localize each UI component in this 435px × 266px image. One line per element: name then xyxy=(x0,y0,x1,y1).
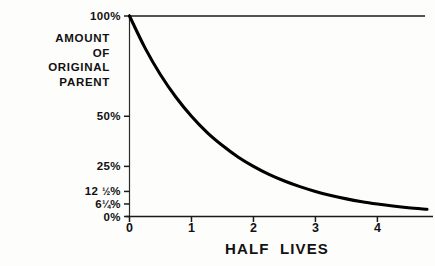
x-tick-label: 4 xyxy=(374,221,381,235)
y-tick-marks xyxy=(124,16,130,217)
x-tick-label: 0 xyxy=(126,221,133,235)
y-tick-label: 6¼% xyxy=(40,198,121,210)
y-axis-title: AMOUNT OF ORIGINAL PARENT xyxy=(4,31,110,89)
y-axis-title-line-2: OF xyxy=(4,46,110,61)
y-axis-title-line-4: PARENT xyxy=(4,75,110,90)
decay-curve-figure: AMOUNT OF ORIGINAL PARENT 100%50%25%12 ½… xyxy=(0,0,435,266)
y-tick-label: 100% xyxy=(40,10,121,22)
x-tick-label: 3 xyxy=(312,221,319,235)
y-tick-label: 0% xyxy=(40,211,121,223)
decay-curve-line xyxy=(130,16,428,209)
y-axis-title-line-1: AMOUNT xyxy=(4,31,110,46)
x-tick-label: 2 xyxy=(250,221,257,235)
x-tick-label: 1 xyxy=(188,221,195,235)
x-axis-title: HALF LIVES xyxy=(129,240,425,257)
y-tick-label: 12 ½% xyxy=(40,185,121,197)
y-axis-title-line-3: ORIGINAL xyxy=(4,60,110,75)
y-tick-label: 25% xyxy=(40,160,121,172)
y-tick-label: 50% xyxy=(40,110,121,122)
